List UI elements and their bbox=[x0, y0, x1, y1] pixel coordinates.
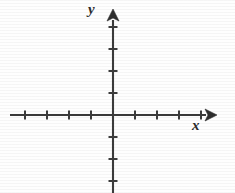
coordinate-plane-figure: y x bbox=[0, 0, 235, 193]
x-axis-label: x bbox=[192, 118, 200, 133]
y-axis-group bbox=[107, 9, 119, 193]
x-axis-arrow-icon bbox=[205, 109, 217, 121]
axes-svg bbox=[0, 0, 235, 193]
y-axis-label: y bbox=[88, 2, 95, 17]
y-axis-arrow-icon bbox=[107, 9, 119, 21]
